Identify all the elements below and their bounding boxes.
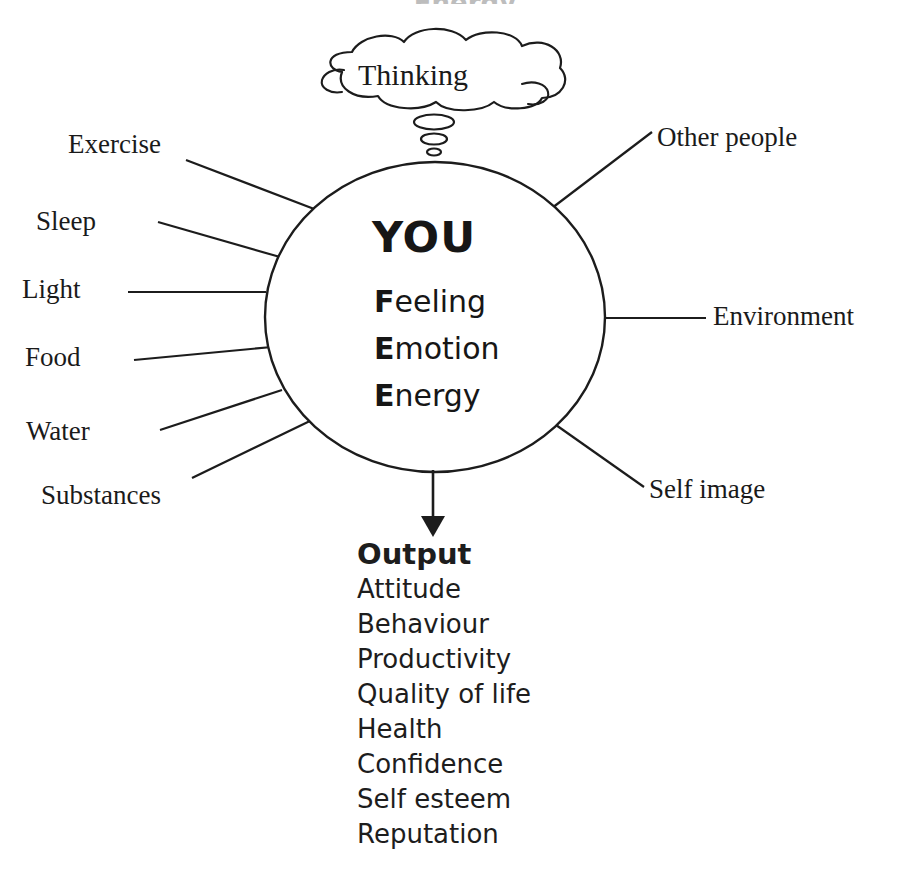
spoke-food — [134, 347, 272, 360]
input-label-light: Light — [22, 276, 81, 303]
spoke-exercise — [186, 160, 322, 212]
output-item-self-esteem: Self esteem — [357, 782, 531, 817]
core-item-feeling-rest: eeling — [395, 284, 487, 319]
core-item-energy-rest: nergy — [395, 378, 481, 413]
input-label-environment: Environment — [713, 303, 854, 330]
output-item-attitude: Attitude — [357, 572, 531, 607]
input-label-sleep: Sleep — [36, 208, 96, 235]
input-label-food: Food — [25, 344, 81, 371]
core-item-energy: Energy — [374, 381, 481, 411]
spoke-sleep — [158, 222, 280, 257]
core-item-energy-initial: E — [374, 378, 395, 413]
output-item-reputation: Reputation — [357, 817, 531, 852]
input-label-exercise: Exercise — [68, 131, 161, 158]
thought-tail-large — [414, 115, 454, 130]
thought-tail-medium — [421, 134, 447, 145]
input-label-self-image: Self image — [649, 476, 765, 503]
output-block: Output Attitude Behaviour Productivity Q… — [357, 536, 531, 852]
core-item-emotion-rest: motion — [395, 331, 500, 366]
output-item-health: Health — [357, 712, 531, 747]
thought-tail-small — [427, 149, 441, 156]
output-item-productivity: Productivity — [357, 642, 531, 677]
core-item-emotion: Emotion — [374, 334, 500, 364]
spoke-other-people — [552, 132, 652, 208]
spoke-water — [160, 390, 282, 430]
input-label-water: Water — [26, 418, 90, 445]
core-title: YOU — [372, 216, 476, 259]
output-item-quality-of-life: Quality of life — [357, 677, 531, 712]
core-item-feeling: Feeling — [374, 287, 486, 317]
thought-bubble-label: Thinking — [358, 60, 468, 90]
spoke-substances — [192, 420, 312, 478]
output-title: Output — [357, 536, 531, 572]
spoke-self-image — [556, 425, 644, 487]
core-item-feeling-initial: F — [374, 284, 395, 319]
input-label-substances: Substances — [41, 482, 161, 509]
input-label-other-people: Other people — [657, 124, 797, 151]
output-arrow-head — [421, 516, 445, 537]
output-item-behaviour: Behaviour — [357, 607, 531, 642]
core-item-emotion-initial: E — [374, 331, 395, 366]
output-item-confidence: Confidence — [357, 747, 531, 782]
influences-on-you-diagram: Energy Thinking YOU Feeling — [0, 0, 911, 874]
